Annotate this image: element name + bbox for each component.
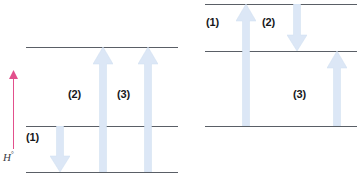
right-label-3: (3) [293, 88, 306, 100]
right-label-2: (2) [262, 16, 275, 28]
left-label-2: (2) [68, 88, 81, 100]
left-bottom-level [26, 172, 178, 173]
right-label-1: (1) [206, 16, 219, 28]
axis-shaft [13, 77, 14, 149]
axis-label-superscript: ° [11, 150, 14, 158]
right-arrow-2-down-icon [287, 4, 307, 51]
energy-diagram-figure: (1) (2) (3) (1) (2) (3) [0, 0, 357, 185]
left-arrow-3-up-icon [138, 47, 158, 172]
axis-arrowhead-up-icon [8, 70, 19, 79]
left-arrow-2-up-icon [93, 47, 113, 172]
right-bottom-level [205, 126, 357, 127]
right-arrow-3-up-icon [327, 51, 347, 126]
axis-label-symbol: H [3, 151, 11, 163]
left-arrow-1-down-icon [50, 126, 70, 172]
right-arrow-1-up-icon [236, 4, 256, 126]
left-label-1: (1) [26, 131, 39, 143]
right-top-level [205, 4, 357, 5]
left-label-3: (3) [117, 88, 130, 100]
axis-label-enthalpy: H° [3, 150, 14, 163]
